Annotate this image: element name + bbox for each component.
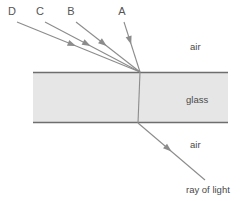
- candidate-ray-C-line: [45, 22, 140, 72]
- candidate-ray-C-arrowhead: [82, 39, 92, 48]
- ray-label-D: D: [8, 5, 16, 17]
- candidate-ray-C-group: [45, 22, 140, 72]
- medium-label-air-bottom: air: [190, 139, 201, 150]
- candidate-ray-D-group: [17, 22, 140, 72]
- medium-label-glass: glass: [186, 94, 208, 105]
- refraction-diagram: D C B A air glass air ray of light: [0, 0, 243, 201]
- candidate-ray-D-arrowhead: [67, 40, 77, 49]
- candidate-ray-B-line: [76, 22, 140, 72]
- ray-label-A: A: [118, 5, 126, 17]
- incident-ray-group: [138, 123, 205, 180]
- medium-label-air-top: air: [190, 41, 201, 52]
- incident-ray-line: [138, 123, 205, 180]
- candidate-ray-D-line: [17, 22, 140, 72]
- diagram-canvas: D C B A air glass air ray of light: [0, 0, 243, 201]
- ray-label-B: B: [67, 5, 74, 17]
- ray-label-C: C: [36, 5, 44, 17]
- ray-of-light-label: ray of light: [186, 184, 230, 195]
- candidate-ray-A-arrowhead: [126, 35, 134, 45]
- candidate-ray-B-group: [76, 22, 140, 72]
